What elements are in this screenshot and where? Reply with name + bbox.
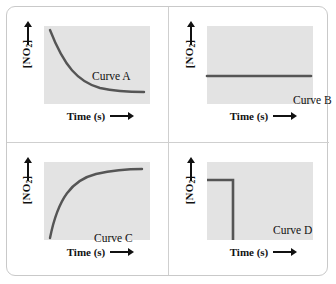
y-axis-label-suffix: ]: [183, 40, 195, 44]
y-axis-label-d: [NO2]: [177, 160, 205, 242]
curve-d-path: [207, 180, 233, 240]
y-axis-label-suffix: ]: [20, 176, 32, 180]
y-axis-label-text-c: [NO2]: [20, 160, 32, 220]
panel-curve-b: [NO2] Curve B Time (s): [169, 6, 331, 142]
curve-a-path: [50, 30, 144, 92]
plot-area-d: Curve D: [207, 162, 313, 240]
plot-area-c: Curve C: [44, 162, 150, 240]
curve-a-svg: [44, 26, 150, 104]
y-axis-label-subscript: 2: [25, 180, 34, 184]
y-axis-label-subscript: 2: [25, 44, 34, 48]
y-axis-label-subscript: 2: [188, 180, 197, 184]
curve-label-b: Curve B: [293, 94, 332, 106]
y-axis-label-prefix: [NO: [20, 48, 32, 69]
x-axis-label-text-a: Time (s): [67, 110, 106, 122]
y-axis-label-c: [NO2]: [14, 160, 42, 242]
panel-curve-a: [NO2] Curve A Time (s): [6, 6, 168, 142]
y-axis-label-prefix: [NO: [183, 184, 195, 205]
curve-c-path: [50, 169, 142, 238]
y-axis-label-text-a: [NO2]: [20, 24, 32, 84]
x-axis-label-text-b: Time (s): [230, 110, 269, 122]
y-axis-label-text-b: [NO2]: [183, 24, 195, 84]
x-axis-label-b: Time (s): [205, 110, 317, 122]
right-arrow-icon: [110, 115, 129, 117]
plot-area-a: Curve A: [44, 26, 150, 104]
panel-curve-c: [NO2] Curve C Time (s): [6, 142, 168, 278]
x-axis-label-a: Time (s): [42, 110, 154, 122]
curve-c-svg: [44, 162, 150, 240]
y-axis-label-text-d: [NO2]: [183, 160, 195, 220]
curve-label-c: Curve C: [94, 232, 133, 244]
y-axis-label-a: [NO2]: [14, 24, 42, 106]
x-axis-label-text-c: Time (s): [67, 246, 106, 258]
plot-area-b: Curve B: [207, 26, 313, 104]
y-axis-label-b: [NO2]: [177, 24, 205, 106]
right-arrow-icon: [273, 251, 292, 253]
x-axis-label-text-d: Time (s): [230, 246, 269, 258]
y-axis-label-subscript: 2: [188, 44, 197, 48]
y-axis-label-suffix: ]: [183, 176, 195, 180]
y-axis-label-prefix: [NO: [20, 184, 32, 205]
curve-label-a: Curve A: [92, 70, 131, 82]
curve-b-svg: [207, 26, 313, 104]
x-axis-label-c: Time (s): [42, 246, 154, 258]
y-axis-label-prefix: [NO: [183, 48, 195, 69]
curve-label-d: Curve D: [273, 224, 312, 236]
four-curve-figure: [NO2] Curve A Time (s) [NO2] Curve B: [0, 0, 336, 284]
right-arrow-icon: [273, 115, 292, 117]
right-arrow-icon: [110, 251, 129, 253]
panel-curve-d: [NO2] Curve D Time (s): [169, 142, 331, 278]
x-axis-label-d: Time (s): [205, 246, 317, 258]
y-axis-label-suffix: ]: [20, 40, 32, 44]
